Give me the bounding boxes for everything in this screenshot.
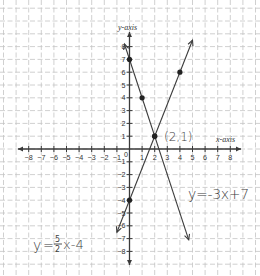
y-tick-label: 6	[122, 68, 126, 77]
equation-label-steep: y=-3x+7	[188, 186, 249, 202]
origin-label: 0	[124, 150, 128, 159]
y-tick-label: −3	[117, 183, 125, 192]
x-tick-label: −2	[100, 153, 108, 162]
eq1-denominator: 2	[55, 245, 60, 254]
y-tick-label: 2	[122, 119, 126, 128]
y-tick-label: 5	[122, 81, 126, 90]
data-point	[140, 95, 145, 100]
eq1-equals: =	[43, 237, 54, 252]
x-tick-label: 6	[203, 153, 207, 162]
coordinate-graph: −8−7−6−5−4−3−2−11234567887654321−1−2−3−4…	[0, 0, 260, 276]
y-tick-label: 3	[122, 106, 126, 115]
y-tick-label: −8	[117, 247, 125, 256]
eq1-y: y	[33, 237, 41, 253]
x-tick-label: 1	[140, 153, 144, 162]
y-tick-label: 4	[122, 93, 126, 102]
x-tick-label: 7	[216, 153, 220, 162]
equation-label-rising: y = 5 2 x-4	[33, 235, 84, 254]
data-point	[127, 57, 132, 62]
x-tick-label: 5	[191, 153, 195, 162]
y-axis-label: y-axis	[117, 23, 137, 32]
x-axis-label: x-axis	[215, 135, 235, 144]
y-axis-up-arrow-icon	[127, 32, 132, 37]
data-point	[127, 198, 132, 203]
x-tick-label: −3	[88, 153, 96, 162]
x-tick-label: −5	[62, 153, 70, 162]
data-point	[177, 70, 182, 75]
intersection-annotation: (2,1)	[164, 130, 192, 144]
x-tick-label: −4	[75, 153, 83, 162]
x-tick-label: −8	[25, 153, 33, 162]
y-tick-label: −4	[117, 196, 125, 205]
axes	[18, 32, 241, 265]
x-axis-right-arrow-icon	[236, 147, 241, 152]
eq1-numerator: 5	[55, 235, 60, 244]
x-tick-label: 2	[153, 153, 157, 162]
x-tick-label: −6	[50, 153, 58, 162]
x-tick-label: 3	[165, 153, 169, 162]
data-point	[152, 134, 157, 139]
x-tick-label: 8	[228, 153, 232, 162]
x-axis-left-arrow-icon	[18, 147, 23, 152]
y-tick-label: −7	[117, 234, 125, 243]
y-tick-label: 7	[122, 55, 126, 64]
x-tick-label: −7	[37, 153, 45, 162]
y-tick-label: −2	[117, 170, 125, 179]
y-tick-label: 1	[122, 132, 126, 141]
eq1-rest: x-4	[63, 237, 84, 252]
x-tick-label: 4	[178, 153, 182, 162]
